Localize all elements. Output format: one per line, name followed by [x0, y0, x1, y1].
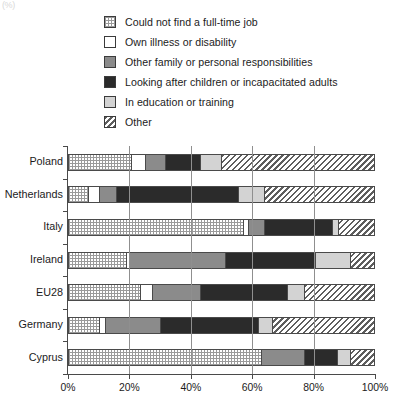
bar-row — [68, 284, 375, 301]
x-axis-tick — [314, 375, 315, 379]
stacked-bar — [68, 186, 375, 203]
legend-item: Other — [104, 112, 384, 132]
category-label: Germany — [19, 318, 63, 330]
x-axis-tick — [375, 375, 376, 379]
bar-segment — [201, 155, 222, 170]
legend-item: Looking after children or incapacitated … — [104, 72, 384, 92]
x-axis-tick-label: 40% — [180, 382, 201, 393]
bar-segment — [339, 220, 375, 235]
legend-item-label: Looking after children or incapacitated … — [125, 76, 338, 88]
category-label: Italy — [43, 220, 63, 232]
x-axis-tick-label: 60% — [242, 382, 263, 393]
bar-row — [68, 154, 375, 171]
y-axis-tick — [63, 211, 67, 212]
legend-item-label: In education or training — [125, 96, 234, 108]
gridline — [252, 146, 253, 374]
legend-item-label: Could not find a full-time job — [125, 16, 258, 28]
bar-segment — [146, 155, 166, 170]
bar-segment — [161, 318, 259, 333]
category-label: Netherlands — [5, 188, 63, 200]
legend-item: Own illness or disability — [104, 32, 384, 52]
legend-swatch-hatch-icon — [104, 116, 116, 128]
stacked-bar — [68, 154, 375, 171]
x-axis-tick-label: 80% — [303, 382, 324, 393]
y-axis-tick — [63, 179, 67, 180]
legend-item-label: Other family or personal responsibilitie… — [125, 56, 313, 68]
bar-segment — [166, 155, 201, 170]
bar-row — [68, 317, 375, 334]
legend-swatch-dotted-icon — [104, 16, 116, 28]
bar-row — [68, 349, 375, 366]
bar-segment — [69, 318, 100, 333]
legend-item-label: Own illness or disability — [125, 36, 236, 48]
bar-segment — [351, 253, 375, 268]
stacked-bar — [68, 252, 375, 269]
bar-segment — [305, 350, 337, 365]
bar-segment — [262, 350, 305, 365]
bar-segment — [249, 220, 266, 235]
legend-item-label: Other — [125, 116, 152, 128]
bar-segment — [226, 253, 317, 268]
bar-segment — [106, 318, 161, 333]
bar-segment — [130, 253, 225, 268]
gridline — [314, 146, 315, 374]
x-axis-tick — [129, 375, 130, 379]
bar-segment — [100, 187, 117, 202]
y-axis-tick — [63, 276, 67, 277]
y-axis-tick — [63, 309, 67, 310]
bar-segment — [305, 285, 375, 300]
legend-swatch-black-icon — [104, 76, 116, 88]
chart-area: PolandNetherlandsItalyIrelandEU28Germany… — [0, 142, 393, 402]
gridline — [129, 146, 130, 374]
plot-region — [68, 146, 375, 374]
y-axis-tick — [63, 146, 67, 147]
bar-segment — [338, 350, 352, 365]
x-axis-tick-label: 100% — [362, 382, 389, 393]
stacked-bar — [68, 284, 375, 301]
x-axis-tick — [191, 375, 192, 379]
bar-segment — [265, 220, 333, 235]
bar-row — [68, 186, 375, 203]
legend-item: In education or training — [104, 92, 384, 112]
x-axis-tick — [68, 375, 69, 379]
bar-segment — [222, 155, 375, 170]
bar-row — [68, 219, 375, 236]
legend-swatch-gray-icon — [104, 56, 116, 68]
bar-segment — [132, 155, 146, 170]
bar-segment — [141, 285, 153, 300]
bar-segment — [265, 187, 375, 202]
corner-text-artifact: (%) — [2, 0, 15, 10]
x-axis-tick-label: 20% — [119, 382, 140, 393]
x-axis-line — [67, 374, 376, 375]
x-axis-tick — [252, 375, 253, 379]
stacked-bar — [68, 219, 375, 236]
bar-segment — [69, 220, 244, 235]
bar-segment — [117, 187, 240, 202]
bar-segment — [351, 350, 375, 365]
stacked-bar — [68, 349, 375, 366]
stacked-bar — [68, 317, 375, 334]
bar-segment — [316, 253, 351, 268]
chart-legend: Could not find a full-time jobOwn illnes… — [104, 12, 384, 132]
category-label: Poland — [29, 155, 63, 167]
legend-item: Could not find a full-time job — [104, 12, 384, 32]
category-label: Ireland — [30, 253, 63, 265]
bar-segment — [259, 318, 273, 333]
category-label: Cyprus — [29, 351, 63, 363]
bar-segment — [69, 253, 127, 268]
bar-row — [68, 252, 375, 269]
legend-swatch-white-icon — [104, 36, 116, 48]
gridline — [191, 146, 192, 374]
legend-swatch-lightgray-icon — [104, 96, 116, 108]
bar-segment — [273, 318, 375, 333]
bar-segment — [89, 187, 100, 202]
bar-segment — [69, 187, 89, 202]
bar-segment — [69, 350, 262, 365]
y-axis-tick — [63, 341, 67, 342]
bar-segment — [153, 285, 201, 300]
y-axis-tick — [63, 374, 67, 375]
x-axis-tick-label: 0% — [60, 382, 75, 393]
bar-segment — [288, 285, 305, 300]
y-axis-tick — [63, 244, 67, 245]
legend-item: Other family or personal responsibilitie… — [104, 52, 384, 72]
